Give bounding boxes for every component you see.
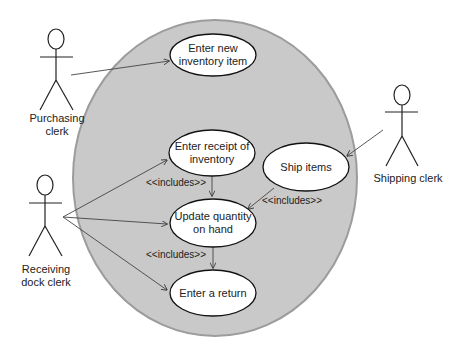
actor-label-line: clerk: [22, 125, 92, 138]
use-case-enter-new[interactable]: Enter new inventory item: [170, 34, 256, 76]
use-case-label: Enter a return: [179, 287, 246, 300]
include-label-ship-update: <<includes>>: [262, 195, 322, 207]
actor-label-line: dock clerk: [8, 276, 84, 289]
use-case-label: inventory item: [179, 55, 247, 68]
actor-shipping-clerk-label: Shipping clerk: [368, 172, 448, 185]
use-case-label: Enter receipt of: [175, 140, 250, 153]
actor-label-line: Receiving: [8, 263, 84, 276]
use-case-label: Ship items: [280, 161, 331, 174]
actor-receiving-clerk-figure[interactable]: [29, 175, 62, 256]
use-case-enter-return[interactable]: Enter a return: [170, 270, 256, 316]
use-case-label: inventory: [190, 153, 235, 166]
actor-label-line: Shipping clerk: [368, 172, 448, 185]
actor-receiving-clerk-label: Receiving dock clerk: [8, 263, 84, 289]
actor-purchasing-clerk-figure[interactable]: [40, 29, 73, 110]
use-case-label: Enter new: [188, 42, 238, 55]
actor-label-line: Purchasing: [22, 112, 92, 125]
use-case-label: on hand: [193, 223, 233, 236]
use-case-ship-items[interactable]: Ship items: [263, 143, 349, 191]
include-label-receipt-update: <<includes>>: [146, 177, 206, 189]
include-label-update-return: <<includes>>: [146, 249, 206, 261]
use-case-enter-receipt[interactable]: Enter receipt of inventory: [169, 130, 255, 176]
use-case-label: Update quantity: [174, 210, 251, 223]
use-case-update-qty[interactable]: Update quantity on hand: [170, 199, 256, 247]
actor-purchasing-clerk-label: Purchasing clerk: [22, 112, 92, 138]
actor-shipping-clerk-figure[interactable]: [385, 85, 418, 166]
